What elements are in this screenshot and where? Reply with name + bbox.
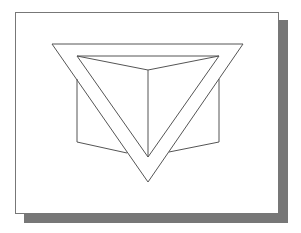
triangle-cube-drawing	[0, 0, 301, 233]
cube-top-right-edge	[148, 56, 219, 70]
cube-outline	[77, 56, 219, 157]
cube-bottom-right-edge	[169, 142, 219, 152]
cube-bottom-left-edge	[77, 142, 127, 153]
cube-top-left-edge	[77, 56, 148, 70]
